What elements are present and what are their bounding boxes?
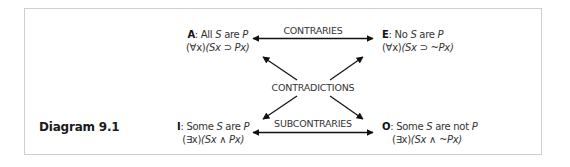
contradiction-arrow-e-i-upper bbox=[330, 57, 363, 80]
proposition-o: O: Some S are not P (∃x)(Sx ∧ ~Px) bbox=[382, 120, 477, 146]
diagram-caption: Diagram 9.1 bbox=[39, 120, 120, 134]
proposition-a-statement: A: All S are P bbox=[186, 28, 249, 41]
contradiction-arrow-e-i-lower bbox=[263, 96, 297, 119]
proposition-i-formula: (∃x)(Sx ∧ Px) bbox=[177, 133, 249, 146]
proposition-o-statement: O: Some S are not P bbox=[382, 120, 477, 133]
proposition-e: E: No S are P (∀x)(Sx ⊃ ~Px) bbox=[382, 28, 454, 54]
contradiction-arrow-a-o-upper bbox=[263, 57, 297, 80]
proposition-a: A: All S are P (∀x)(Sx ⊃ Px) bbox=[186, 28, 249, 54]
proposition-i: I: Some S are P (∃x)(Sx ∧ Px) bbox=[177, 120, 249, 146]
contradictions-label: CONTRADICTIONS bbox=[272, 82, 355, 93]
proposition-e-statement: E: No S are P bbox=[382, 28, 454, 41]
proposition-i-statement: I: Some S are P bbox=[177, 120, 249, 133]
proposition-o-formula: (∃x)(Sx ∧ ~Px) bbox=[382, 133, 477, 146]
proposition-e-formula: (∀x)(Sx ⊃ ~Px) bbox=[382, 41, 454, 54]
contradiction-arrow-a-o-lower bbox=[330, 96, 363, 119]
subcontraries-label: SUBCONTRARIES bbox=[274, 118, 352, 129]
contraries-label: CONTRARIES bbox=[283, 25, 342, 36]
proposition-a-formula: (∀x)(Sx ⊃ Px) bbox=[186, 41, 249, 54]
